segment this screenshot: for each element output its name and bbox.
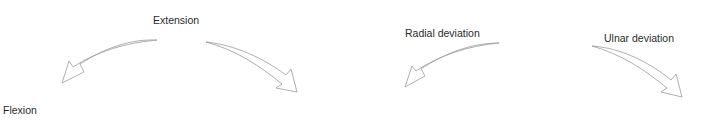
curved-arrow-down-right-icon — [206, 42, 297, 92]
curved-arrow-down-left-icon — [62, 40, 157, 83]
diagram-canvas — [0, 0, 706, 125]
label-extension: Extension — [153, 15, 199, 26]
label-radial-deviation: Radial deviation — [405, 28, 480, 39]
label-ulnar-deviation: Ulnar deviation — [604, 33, 674, 44]
curved-arrow-ulnar-deviation-icon — [592, 46, 682, 97]
curved-arrow-radial-deviation-icon — [405, 43, 499, 87]
label-flexion: Flexion — [3, 105, 37, 116]
